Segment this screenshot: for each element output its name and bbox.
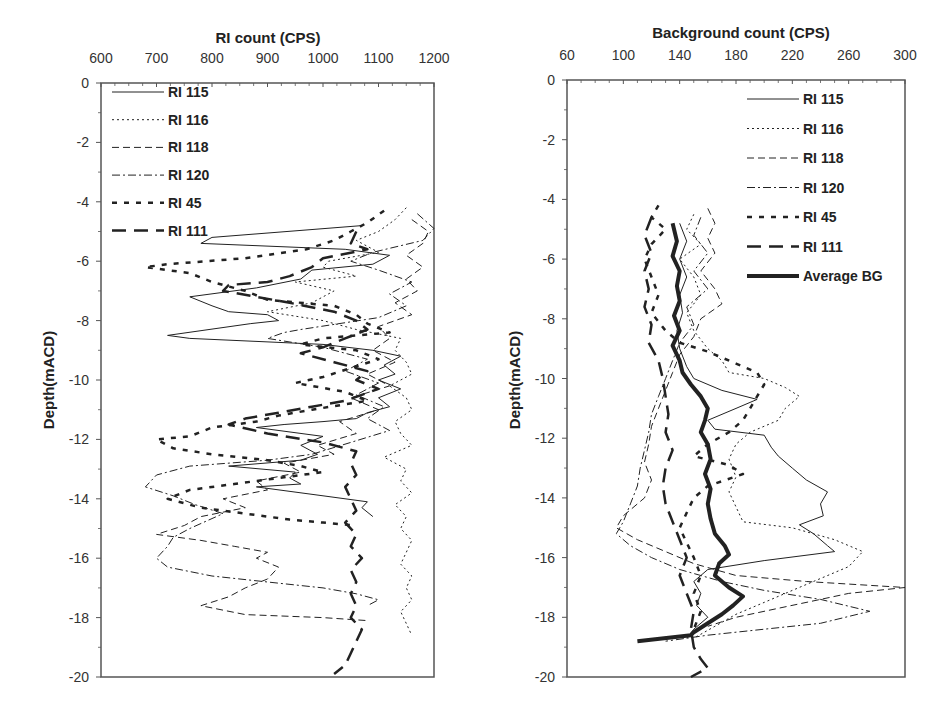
right-chart: Background count (CPS) Depth(mACD) 60100… <box>506 24 917 685</box>
y-tick-label: -16 <box>535 550 555 566</box>
right-chart-legend: RI 115RI 116RI 118RI 120RI 45RI 111Avera… <box>747 91 883 284</box>
left-chart: RI count (CPS) Depth(mACD) 6007008009001… <box>40 29 450 685</box>
y-tick-label: -8 <box>543 311 556 327</box>
y-tick-label: -18 <box>535 609 555 625</box>
y-tick-label: -14 <box>69 491 89 507</box>
y-tick-label: 0 <box>547 72 555 88</box>
x-tick-label: 100 <box>612 47 636 63</box>
legend-label: RI 45 <box>803 209 837 225</box>
y-tick-label: -20 <box>535 669 555 685</box>
figure: RI count (CPS) Depth(mACD) 6007008009001… <box>0 0 945 717</box>
right-chart-title: Background count (CPS) <box>652 24 830 41</box>
series-ri-118 <box>157 220 429 621</box>
left-chart-y-axis-title: Depth(mACD) <box>40 331 57 429</box>
y-tick-label: -16 <box>69 550 89 566</box>
x-tick-label: 600 <box>89 50 113 66</box>
left-chart-title: RI count (CPS) <box>216 29 321 46</box>
y-tick-label: -4 <box>543 191 556 207</box>
right-chart-axes: 601001401802202603000-2-4-6-8-10-12-14-1… <box>535 47 917 685</box>
legend-label: RI 120 <box>168 167 209 183</box>
legend-label: RI 115 <box>168 84 209 100</box>
y-tick-label: -8 <box>77 313 90 329</box>
left-chart-axes: 6007008009001000110012000-2-4-6-8-10-12-… <box>69 50 450 685</box>
y-tick-label: -18 <box>69 610 89 626</box>
y-tick-label: -12 <box>69 431 89 447</box>
y-tick-label: -10 <box>535 371 555 387</box>
series-ri-45 <box>145 211 389 526</box>
x-tick-label: 180 <box>724 47 748 63</box>
y-tick-label: -6 <box>77 253 90 269</box>
left-chart-legend: RI 115RI 116RI 118RI 120RI 45RI 111 <box>112 84 209 239</box>
x-tick-label: 900 <box>256 50 280 66</box>
y-tick-label: -2 <box>77 134 90 150</box>
y-tick-label: -10 <box>69 372 89 388</box>
x-tick-label: 220 <box>781 47 805 63</box>
legend-label: RI 118 <box>803 150 844 166</box>
x-tick-label: 700 <box>145 50 169 66</box>
legend-label: Average BG <box>803 268 883 284</box>
legend-label: RI 118 <box>168 139 209 155</box>
x-tick-label: 300 <box>893 47 917 63</box>
y-tick-label: -2 <box>543 132 556 148</box>
left-chart-series <box>145 208 434 674</box>
series-ri-111 <box>223 232 378 675</box>
x-tick-label: 60 <box>559 47 575 63</box>
x-tick-label: 800 <box>200 50 224 66</box>
x-tick-label: 140 <box>668 47 692 63</box>
legend-label: RI 111 <box>803 239 843 255</box>
legend-label: RI 116 <box>803 121 844 137</box>
x-tick-label: 260 <box>837 47 861 63</box>
y-tick-label: -6 <box>543 251 556 267</box>
x-tick-label: 1100 <box>363 50 393 66</box>
y-tick-label: -20 <box>69 669 89 685</box>
y-tick-label: 0 <box>81 75 89 91</box>
x-tick-label: 1000 <box>307 50 338 66</box>
legend-label: RI 111 <box>168 223 208 239</box>
y-tick-label: -4 <box>77 194 90 210</box>
y-tick-label: -14 <box>535 490 555 506</box>
legend-label: RI 120 <box>803 180 844 196</box>
y-tick-label: -12 <box>535 430 555 446</box>
legend-label: RI 115 <box>803 91 844 107</box>
x-tick-label: 1200 <box>418 50 449 66</box>
right-chart-y-axis-title: Depth(mACD) <box>506 331 523 429</box>
plot-frame <box>101 83 434 677</box>
plot-frame <box>567 80 905 677</box>
legend-label: RI 116 <box>168 112 209 128</box>
legend-label: RI 45 <box>168 195 202 211</box>
